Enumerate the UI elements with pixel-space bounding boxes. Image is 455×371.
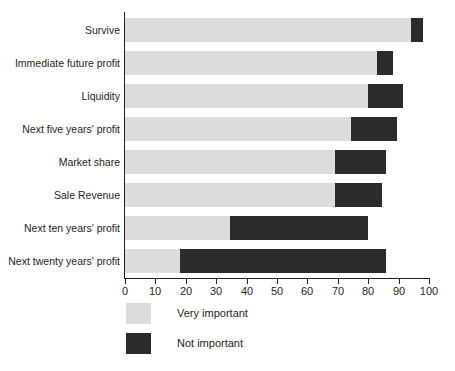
x-axis-tick	[429, 279, 430, 284]
legend-label-not-important: Not important	[177, 337, 243, 350]
x-axis-tick	[125, 279, 126, 284]
bar-row	[125, 183, 429, 207]
bar-row	[125, 51, 429, 75]
category-label: Sale Revenue	[2, 189, 120, 201]
plot-area	[125, 13, 429, 277]
bar-segment-not-important	[377, 51, 392, 75]
x-axis-tick	[277, 279, 278, 284]
x-axis-tick-label: 100	[409, 285, 449, 298]
bar-segment-not-important	[230, 216, 368, 240]
bar-row	[125, 150, 429, 174]
category-label: Next ten years' profit	[2, 222, 120, 234]
category-label: Immediate future profit	[2, 57, 120, 69]
bar-segment-not-important	[351, 117, 397, 141]
bar-segment-not-important	[335, 183, 382, 207]
bar-row	[125, 216, 429, 240]
bar-segment-very-important	[125, 183, 335, 207]
bar-segment-not-important	[335, 150, 387, 174]
bar-row	[125, 18, 429, 42]
x-axis-tick	[307, 279, 308, 284]
category-label: Survive	[2, 24, 120, 36]
bar-segment-very-important	[125, 249, 180, 273]
bar-segment-very-important	[125, 51, 377, 75]
bar-segment-not-important	[411, 18, 423, 42]
bar-segment-very-important	[125, 150, 335, 174]
bar-segment-very-important	[125, 117, 351, 141]
category-label: Next twenty years' profit	[2, 255, 120, 267]
x-axis-tick	[368, 279, 369, 284]
bar-segment-not-important	[180, 249, 387, 273]
x-axis-tick	[216, 279, 217, 284]
category-label: Next five years' profit	[2, 123, 120, 135]
x-axis-tick	[399, 279, 400, 284]
bar-row	[125, 249, 429, 273]
bar-row	[125, 117, 429, 141]
bar-segment-not-important	[368, 84, 403, 108]
x-axis-tick	[338, 279, 339, 284]
bar-row	[125, 84, 429, 108]
x-axis-tick	[247, 279, 248, 284]
bar-segment-very-important	[125, 18, 411, 42]
x-axis-tick	[155, 279, 156, 284]
stacked-bar-chart: SurviveImmediate future profitLiquidityN…	[0, 0, 455, 371]
bar-segment-very-important	[125, 216, 230, 240]
category-axis-labels: SurviveImmediate future profitLiquidityN…	[0, 13, 120, 277]
legend-swatch-very-important	[126, 303, 151, 324]
x-axis-tick	[186, 279, 187, 284]
legend-label-very-important: Very important	[177, 307, 248, 320]
category-label: Liquidity	[2, 90, 120, 102]
bar-segment-very-important	[125, 84, 368, 108]
category-label: Market share	[2, 156, 120, 168]
legend-swatch-not-important	[126, 333, 151, 354]
